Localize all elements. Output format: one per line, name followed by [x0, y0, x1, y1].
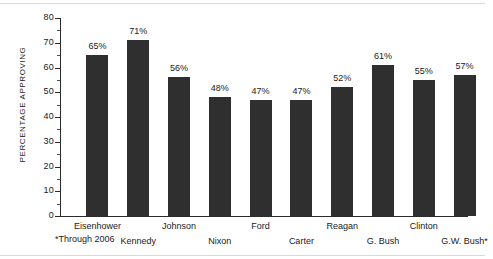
bar [86, 55, 108, 216]
bar-value-label: 47% [281, 86, 321, 96]
y-tick-major [55, 167, 60, 168]
y-tick-minor [57, 105, 60, 106]
y-tick-label: 30 [44, 136, 54, 146]
plot-area: 65%71%56%48%47%47%52%61%55%57% Eisenhowe… [60, 18, 468, 216]
bar [413, 80, 435, 216]
y-axis-tick-labels: 01020304050607080 [26, 18, 54, 217]
bar-value-label: 61% [363, 51, 403, 61]
y-tick-major [55, 142, 60, 143]
x-category-label: Nixon [185, 236, 255, 246]
y-tick-label: 70 [44, 37, 54, 47]
y-axis-title: PERCENTAGE APPROVING [18, 5, 27, 205]
y-tick-minor [57, 55, 60, 56]
bar [209, 97, 231, 216]
y-axis-line [60, 18, 61, 217]
y-tick-label: 60 [44, 62, 54, 72]
bottom-divider [0, 255, 485, 256]
bar [250, 100, 272, 216]
y-tick-major [55, 117, 60, 118]
x-category-label: Clinton [389, 221, 459, 231]
x-category-label: Carter [266, 236, 336, 246]
x-axis-line [60, 216, 468, 217]
x-category-label: G.W. Bush* [430, 236, 493, 246]
y-tick-major [55, 43, 60, 44]
x-category-label: Eisenhower [62, 221, 132, 231]
y-tick-minor [57, 30, 60, 31]
bar-value-label: 65% [77, 41, 117, 51]
x-category-label: Johnson [144, 221, 214, 231]
y-tick-label: 20 [44, 161, 54, 171]
y-tick-major [55, 191, 60, 192]
bar [372, 65, 394, 216]
bar [331, 87, 353, 216]
y-tick-label: 80 [44, 12, 54, 22]
chart-footnote: *Through 2006 [55, 234, 115, 244]
y-tick-label: 10 [44, 185, 54, 195]
top-divider [0, 3, 485, 4]
y-tick-label: 0 [49, 210, 54, 220]
y-tick-major [55, 68, 60, 69]
y-tick-label: 50 [44, 86, 54, 96]
y-tick-minor [57, 154, 60, 155]
bar [168, 77, 190, 216]
y-tick-minor [57, 179, 60, 180]
y-tick-label: 40 [44, 111, 54, 121]
y-tick-major [55, 92, 60, 93]
bar-value-label: 55% [404, 66, 444, 76]
y-tick-minor [57, 129, 60, 130]
x-category-label: Ford [226, 221, 296, 231]
bar-value-label: 48% [200, 83, 240, 93]
bar-value-label: 57% [445, 61, 485, 71]
bar-value-label: 52% [322, 73, 362, 83]
y-tick-minor [57, 204, 60, 205]
bar [127, 40, 149, 216]
bar-value-label: 47% [241, 86, 281, 96]
bar-value-label: 71% [118, 26, 158, 36]
y-tick-major [55, 216, 60, 217]
x-category-label: Reagan [307, 221, 377, 231]
y-tick-minor [57, 80, 60, 81]
bar-value-label: 56% [159, 63, 199, 73]
x-category-label: G. Bush [348, 236, 418, 246]
bar [290, 100, 312, 216]
y-tick-major [55, 18, 60, 19]
bar [454, 75, 476, 216]
